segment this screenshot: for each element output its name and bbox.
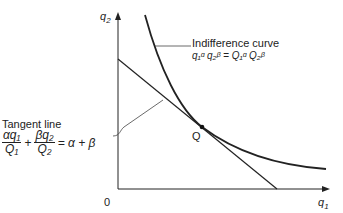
- term1: αq₁Q₁: [2, 129, 21, 156]
- diagram: q2 q1 0 Indifference curve q₁ᵅ q₂ᵝ = Q₁ᵅ…: [0, 0, 343, 213]
- y-axis-label: q2: [100, 10, 111, 27]
- tangency-point: [200, 125, 205, 130]
- tangent-formula: αq₁Q₁ + βq₂Q₂ = α + β: [2, 129, 95, 156]
- origin-label: 0: [104, 196, 110, 208]
- term2: βq₂Q₂: [34, 129, 54, 156]
- x-axis: [118, 186, 330, 192]
- tangent-line: [118, 59, 277, 189]
- point-label: Q: [192, 130, 201, 142]
- diagram-graphics: [0, 0, 343, 213]
- tangent-leader: [113, 100, 163, 136]
- indifference-title: Indifference curve: [192, 37, 279, 49]
- y-axis: [115, 12, 121, 189]
- x-axis-label: q1: [318, 196, 329, 213]
- indifference-formula: q₁ᵅ q₂ᵝ = Q₁ᵅ Q₂ᵝ: [192, 50, 265, 62]
